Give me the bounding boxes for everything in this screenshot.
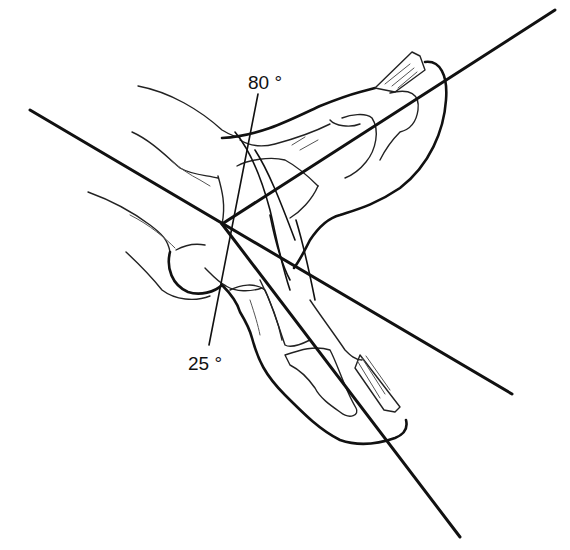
- angle-label-25: 25 °: [188, 353, 222, 374]
- proximal-axis-line: [30, 110, 512, 394]
- angle-label-80: 80 °: [248, 72, 282, 93]
- distal-axis-line: [222, 10, 555, 224]
- measurement-lines: [30, 10, 555, 537]
- flexed-axis-line: [222, 224, 460, 537]
- diagram-canvas: 80 ° 25 °: [0, 0, 570, 550]
- finger-joint-illustration: 80 ° 25 °: [0, 0, 570, 550]
